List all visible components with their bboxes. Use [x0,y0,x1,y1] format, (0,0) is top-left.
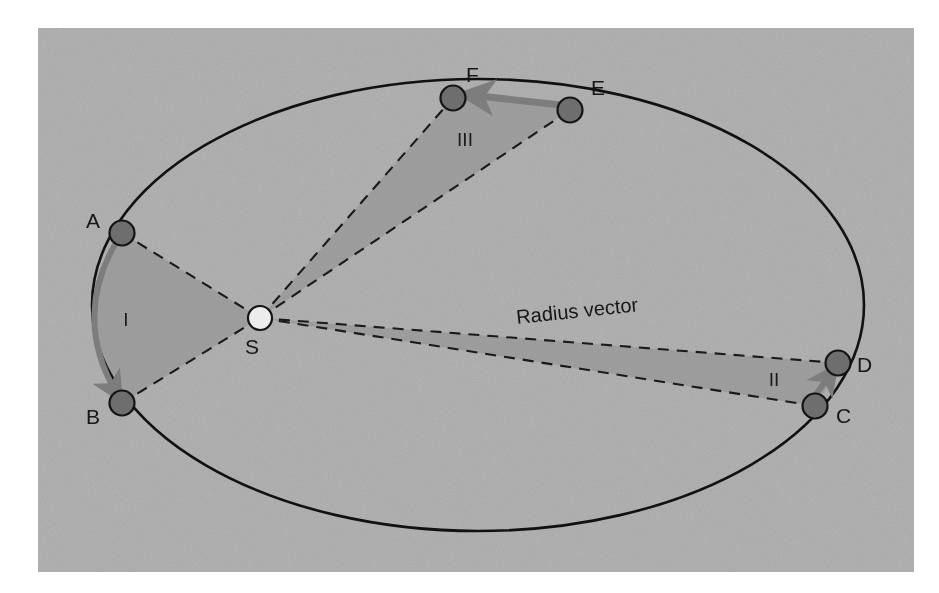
orbit-diagram: A B C D E F S I II III Radius vector [0,0,939,593]
planet-D[interactable] [826,351,851,376]
label-D: D [857,353,872,376]
label-B: B [86,405,100,428]
planet-A[interactable] [110,221,135,246]
label-E: E [591,76,605,99]
label-sector-I: I [123,309,128,330]
planet-C[interactable] [803,394,828,419]
planet-E[interactable] [558,98,583,123]
figure-stage: A B C D E F S I II III Radius vector [0,0,939,593]
label-F: F [466,63,479,86]
sector-II-area [260,318,838,406]
sun-S[interactable] [248,306,272,330]
sector-III-area [260,98,570,318]
label-C: C [836,404,851,427]
sector-I-area [94,233,260,403]
label-A: A [86,209,100,232]
label-S: S [245,335,259,358]
label-sector-III: III [457,129,473,150]
planet-F[interactable] [441,86,466,111]
label-radius-vector: Radius vector [515,293,639,328]
label-sector-II: II [769,369,780,390]
planet-B[interactable] [110,391,135,416]
